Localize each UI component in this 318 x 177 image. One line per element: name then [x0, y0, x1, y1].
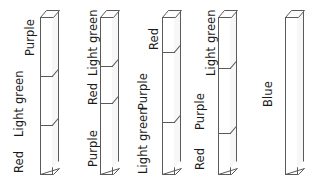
bar-4-divider-1 — [218, 68, 231, 69]
bar-3-prism — [162, 10, 182, 170]
bar-4-divider-2 — [218, 133, 231, 134]
bar-2-side-face — [112, 10, 119, 168]
bar-3-divider-2 — [162, 122, 175, 123]
bar-2-bottom-cap — [100, 168, 122, 177]
bar-4-segment-label-middle: Purple — [195, 93, 207, 130]
bar-1-segment-label-top: Purple — [25, 19, 37, 56]
bar-3-segment-label-top: Red — [149, 28, 161, 50]
bar-2-top-cap — [100, 10, 122, 20]
bar-2-divider-1 — [100, 66, 113, 67]
diagram-canvas: Purple Light green Red Light green — [0, 0, 318, 177]
bar-3-divider-1 — [162, 52, 175, 53]
bar-4-side-face — [230, 10, 237, 168]
bar-4-prism — [218, 10, 238, 170]
bar-1-side-face — [52, 10, 59, 168]
bar-2-prism — [100, 10, 120, 170]
bar-5-front-face — [285, 17, 298, 175]
bar-2-segment-label-bottom: Purple — [88, 130, 100, 167]
bar-4-front-face — [218, 17, 231, 175]
bar-1-front-face — [40, 17, 53, 175]
bar-1-prism — [40, 10, 60, 170]
bar-3-side-face — [174, 10, 181, 168]
bar-1-bottom-cap — [40, 168, 62, 177]
bar-2-divider-2 — [100, 103, 113, 104]
bar-1-top-cap — [40, 10, 62, 20]
bar-3-front-face — [162, 17, 175, 175]
bar-1-divider-2 — [40, 125, 53, 126]
bar-5-segment-label-full: Blue — [263, 81, 275, 107]
bar-3-segment-label-middle: Purple — [138, 73, 150, 110]
bar-2-segment-label-top: Light green — [88, 9, 100, 76]
bar-3-segment-label-bottom: Light green — [138, 107, 150, 174]
bar-3-bottom-cap — [162, 168, 184, 177]
bar-4-segment-label-bottom: Red — [195, 148, 207, 170]
bar-5-side-face — [297, 10, 304, 168]
bar-1-divider-1 — [40, 76, 53, 77]
bar-4-top-cap — [218, 10, 240, 20]
bar-4-segment-label-top: Light green — [206, 9, 218, 76]
bar-1-segment-label-bottom: Red — [14, 151, 26, 173]
bar-4-bottom-cap — [218, 168, 240, 177]
bar-5-prism — [285, 10, 305, 170]
bar-1-segment-label-middle: Light green — [14, 70, 26, 137]
bar-5-bottom-cap — [285, 168, 307, 177]
bar-3-top-cap — [162, 10, 184, 20]
bar-2-segment-label-middle: Red — [88, 83, 100, 105]
bar-5-top-cap — [285, 10, 307, 20]
bar-2-front-face — [100, 17, 113, 175]
